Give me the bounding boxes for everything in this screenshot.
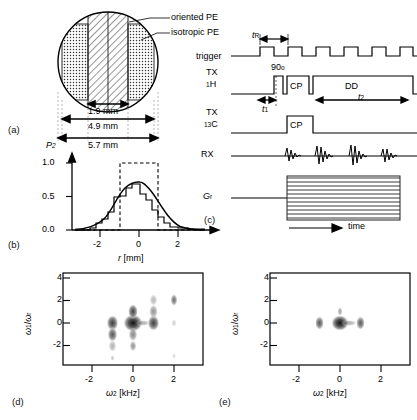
panel-label-e: (e): [219, 396, 231, 407]
panel-e-xtick-1: -2: [292, 375, 300, 384]
pulse-90-label: 90o: [271, 63, 285, 72]
row-label-tx-1h-nucleus: 1H: [206, 80, 216, 89]
tr-label: tR: [252, 31, 259, 40]
row-label-trigger: trigger: [196, 52, 222, 61]
panel-d-ytick-3: 0: [57, 318, 62, 327]
tx-13c-waveform: [231, 116, 417, 133]
tr-dimension-arrow: [260, 34, 288, 45]
panel-e-ytick-3: 0: [264, 318, 269, 327]
panel-b-x-axis-label: r [mm]: [118, 254, 144, 263]
trigger-waveform: [231, 47, 417, 56]
t2-label: t2: [358, 93, 364, 102]
panel-b-xtick-3: 2: [175, 240, 180, 249]
row-label-rx: RX: [201, 150, 214, 159]
panel-d-xtick-3: 2: [171, 375, 176, 384]
cp-label-1h: CP: [290, 82, 303, 91]
panel-b-plot: [30, 148, 230, 263]
row-label-tx-1h: TX: [206, 68, 218, 77]
rx-echo-signals: [285, 145, 397, 165]
panel-b-ytick-3: 0.0: [42, 225, 55, 234]
panel-e-y-axis-label: ω1/ωr: [231, 313, 240, 335]
series-experimental-step: [75, 184, 205, 230]
panel-c-pulse-sequence: [227, 28, 417, 233]
dd-label: DD: [345, 82, 358, 91]
dimension-label-2: 4.9 mm: [88, 122, 118, 131]
panel-b-ytick-1: 1.0: [42, 158, 55, 167]
panel-label-c: (c): [204, 214, 215, 225]
row-label-tx-13c: TX: [206, 108, 218, 117]
row-label-tx-13c-nucleus: 13C: [204, 120, 218, 129]
panel-e-ytick-4: -2: [260, 340, 268, 349]
panel-b-xtick-2: 0: [136, 240, 141, 249]
time-label: time: [348, 222, 365, 231]
panel-d-xtick-2: 0: [130, 375, 135, 384]
cp-label-13c: CP: [290, 121, 303, 130]
panel-d-xtick-1: -2: [85, 375, 93, 384]
legend-label-isotropic-pe: isotropic PE: [171, 28, 219, 37]
panel-e-ytick-1: 4: [264, 273, 269, 282]
panel-b-axes: [69, 153, 220, 234]
panel-b-y-axis-label: P2: [46, 141, 56, 150]
row-label-gr: Gr: [203, 192, 212, 201]
dimension-label-1: 1.9 mm: [88, 107, 118, 116]
panel-e-x-ticks: [299, 365, 381, 372]
t1-label: t1: [262, 105, 268, 114]
panel-b-ytick-2: 0.5: [42, 192, 55, 201]
panel-e-x-axis-label: ω2 [kHz]: [313, 389, 347, 398]
panel-d-x-ticks: [92, 365, 174, 372]
series-ideal-step: [75, 163, 205, 230]
legend-label-oriented-pe: oriented PE: [171, 13, 218, 22]
panel-d-y-axis-label: ω1/ωr: [24, 313, 33, 335]
panel-label-a: (a): [8, 124, 20, 135]
panel-label-d: (d): [12, 396, 24, 407]
panel-d-ytick-4: -2: [53, 340, 61, 349]
panel-b-x-ticks: [100, 230, 178, 237]
panel-e-ytick-2: 2: [264, 295, 269, 304]
panel-d-ytick-1: 4: [57, 273, 62, 282]
panel-b-xtick-1: -2: [93, 240, 101, 249]
gradient-block: [287, 176, 400, 220]
sample-cross-section: [58, 8, 158, 116]
figure-root: oriented PE isotropic PE 1.9 mm 4.9 mm 5…: [0, 0, 417, 420]
panel-e-xtick-2: 0: [337, 375, 342, 384]
t1-dimension-arrow: [258, 76, 276, 106]
time-axis-arrow: [289, 224, 342, 232]
tx-1h-waveform: [231, 76, 417, 94]
panel-b-y-ticks: [66, 163, 72, 230]
panel-d-x-axis-label: ω2 [kHz]: [106, 389, 140, 398]
panel-e-xtick-3: 2: [378, 375, 383, 384]
panel-d-ytick-2: 2: [57, 295, 62, 304]
panel-label-b: (b): [8, 239, 20, 250]
